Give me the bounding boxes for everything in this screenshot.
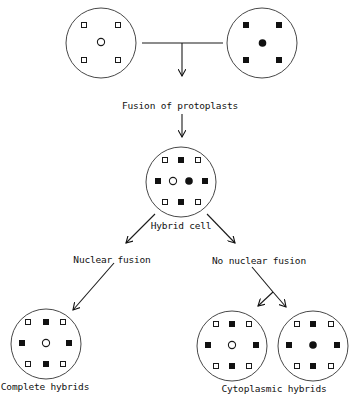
- parent-cell-a: [66, 8, 136, 78]
- hybrid-cell: [146, 147, 216, 217]
- label-no-nuclear-fusion: No nuclear fusion: [212, 255, 306, 266]
- filled-nucleus-icon: [259, 39, 267, 47]
- complete-hybrid-cell: [11, 309, 81, 379]
- open-nucleus-icon: [97, 38, 104, 45]
- cytoplasmic-hybrid-a: [197, 311, 267, 381]
- cytoplasmic-hybrid-b: [278, 311, 348, 381]
- label-nuclear-fusion: Nuclear fusion: [73, 254, 150, 265]
- protoplast-fusion-diagram: [0, 0, 356, 404]
- arrow-to-cyto-a: [258, 292, 273, 306]
- parent-cell-b: [227, 8, 297, 78]
- label-complete-hybrids: Complete hybrids: [1, 381, 89, 392]
- label-fusion-of-protoplasts: Fusion of protoplasts: [122, 100, 238, 111]
- label-cytoplasmic-hybrids: Cytoplasmic hybrids: [222, 383, 327, 394]
- label-hybrid-cell: Hybrid cell: [151, 220, 212, 231]
- arrow-to-complete: [73, 263, 114, 310]
- arrow-to-cyto-b: [273, 292, 286, 307]
- split-line: [252, 267, 273, 292]
